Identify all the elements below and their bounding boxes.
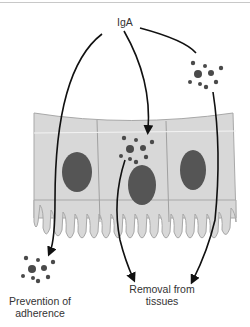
iga-diagram: [0, 0, 250, 327]
arrow-cluster-link: [140, 28, 196, 53]
removal-line-2: tissues: [120, 295, 204, 307]
removal-from-tissues-label: Removal from tissues: [120, 283, 204, 307]
prevention-line-2: adherence: [2, 307, 78, 319]
removal-line-1: Removal from: [120, 283, 204, 295]
antigen-cluster-top-right: [188, 61, 223, 89]
epithelial-layer: [34, 113, 236, 238]
iga-label: IgA: [108, 16, 142, 28]
arrow-into-cell: [124, 31, 149, 130]
prevention-line-1: Prevention of: [2, 295, 78, 307]
nucleus-right: [180, 150, 206, 190]
nucleus-center: [128, 165, 156, 205]
prevention-of-adherence-label: Prevention of adherence: [2, 295, 78, 319]
antigen-cluster-bottom-left: [21, 256, 55, 283]
nucleus-left: [62, 152, 92, 192]
